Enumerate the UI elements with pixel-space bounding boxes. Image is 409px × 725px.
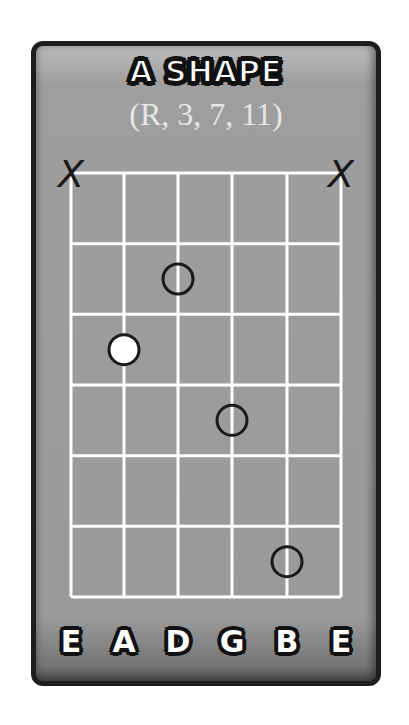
finger-dots xyxy=(109,264,302,577)
string-label-b-5: B xyxy=(267,624,307,659)
string-label-e-6: E xyxy=(321,624,361,659)
string-label-a-2: A xyxy=(104,624,144,659)
string-label-d-3: D xyxy=(158,624,198,659)
muted-x-icon: X xyxy=(326,152,355,196)
root-dot xyxy=(109,335,139,365)
chord-diagram-card: A SHAPE (R, 3, 7, 11) XX EADGBE xyxy=(31,41,381,686)
string-labels: EADGBE xyxy=(36,624,386,674)
muted-x-icon: X xyxy=(56,152,85,196)
fretboard-grid: XX xyxy=(36,46,376,686)
string-label-e-1: E xyxy=(51,624,91,659)
string-label-g-4: G xyxy=(212,624,252,659)
